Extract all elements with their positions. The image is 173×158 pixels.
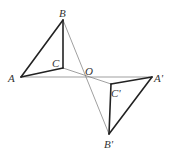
label-O: O [85, 65, 93, 77]
label-A: A [7, 72, 15, 84]
label-A-prime: A' [153, 72, 164, 84]
geometry-diagram: ABCOA'B'C' [0, 0, 173, 158]
segment-ApBp [109, 77, 152, 134]
label-C: C [52, 57, 60, 69]
connecting-lines [21, 20, 152, 134]
label-C-prime: C' [111, 87, 121, 99]
label-B: B [59, 7, 66, 19]
segment-ApCp [111, 77, 152, 84]
label-B-prime: B' [104, 138, 114, 150]
